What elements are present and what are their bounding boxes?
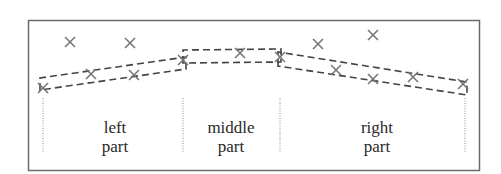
left-label-line2: part <box>65 137 165 156</box>
data-points <box>38 30 468 93</box>
right-label-line1: right <box>327 118 427 137</box>
cross-marker-icon <box>275 52 285 62</box>
cross-marker-icon <box>458 79 468 89</box>
cross-marker-icon <box>313 39 323 49</box>
dashed-bands <box>40 49 467 95</box>
cross-marker-icon <box>86 69 96 79</box>
middle-part-label: middle part <box>181 118 281 156</box>
middle-label-line2: part <box>181 137 281 156</box>
middle-label-line1: middle <box>181 118 281 137</box>
right-part-label: right part <box>327 118 427 156</box>
right-label-line2: part <box>327 137 427 156</box>
cross-marker-icon <box>408 72 418 82</box>
left-label-line1: left <box>65 118 165 137</box>
middle-band <box>183 49 281 63</box>
cross-marker-icon <box>125 38 135 48</box>
cross-marker-icon <box>65 37 75 47</box>
right-band <box>278 52 467 95</box>
cross-marker-icon <box>331 65 341 75</box>
cross-marker-icon <box>129 70 139 80</box>
cross-marker-icon <box>368 30 378 40</box>
cross-marker-icon <box>368 74 378 84</box>
left-band <box>40 57 186 90</box>
left-part-label: left part <box>65 118 165 156</box>
